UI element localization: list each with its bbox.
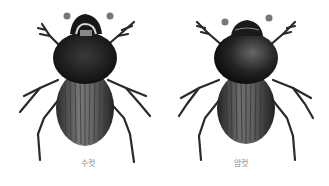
antenna-right	[266, 15, 273, 22]
antenna-left	[222, 19, 229, 26]
clypeus	[80, 30, 92, 36]
caption-male: 수컷	[58, 157, 118, 168]
pronotum	[53, 32, 117, 84]
female-beetle-figure: 암컷	[165, 0, 329, 186]
antenna-left	[64, 13, 71, 20]
male-beetle-figure: 수컷	[0, 0, 164, 186]
antenna-right	[107, 13, 114, 20]
pronotum	[214, 32, 278, 84]
caption-female: 암컷	[211, 157, 271, 168]
